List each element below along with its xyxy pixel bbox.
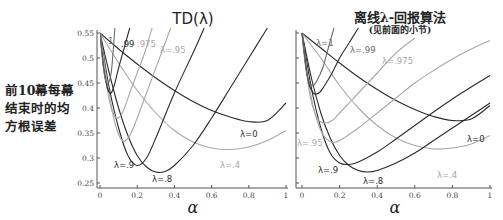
x-tick-label: 0.4: [371, 191, 383, 200]
curve-label: λ=1: [316, 38, 334, 48]
curve-label: λ=0: [467, 134, 485, 144]
x-tick-label: 1: [284, 191, 289, 200]
curve-lambda-p95: [302, 33, 490, 143]
x-tick-label: 0.6: [409, 191, 421, 200]
chart-canvas: TD(λ) α 0.250.30.350.40.450.50.5500.20.4…: [0, 0, 503, 220]
x-axis-label-right: α: [390, 198, 401, 217]
curve-label: λ=.99: [350, 45, 376, 55]
x-tick-label: 0: [98, 191, 103, 200]
curve-label: λ=.95: [297, 138, 323, 148]
curve-label: .975: [137, 39, 156, 49]
x-tick-label: 0.2: [131, 191, 143, 200]
curve-label: λ=.4: [220, 160, 240, 170]
y-tick-label: 0.5: [82, 54, 94, 63]
curve-label: λ=.95: [160, 45, 186, 55]
x-tick-label: 0.6: [206, 191, 218, 200]
x-tick-label: 0: [300, 191, 305, 200]
x-tick-label: 1: [488, 191, 493, 200]
curve-label: .99: [121, 39, 135, 49]
curve-label: λ=.4: [437, 170, 457, 180]
x-tick-label: 0.8: [446, 191, 458, 200]
x-tick-label: 0.8: [243, 191, 255, 200]
curve-label: λ=.975: [382, 56, 413, 66]
x-tick-label: 0.2: [334, 191, 346, 200]
y-tick-label: 0.3: [82, 154, 94, 163]
y-tick-label: 0.45: [77, 79, 94, 88]
y-tick-label: 0.55: [77, 29, 94, 38]
chart-title-td-lambda: TD(λ): [171, 10, 213, 28]
x-axis-label-left: α: [188, 198, 199, 217]
chart-title-offline-lambda-return: 离线λ-回报算法: [354, 10, 447, 25]
chart-panel-td-lambda: TD(λ) α 0.250.30.350.40.450.50.5500.20.4…: [77, 10, 288, 217]
y-tick-label: 0.35: [77, 129, 94, 138]
y-tick-label: 0.4: [82, 104, 94, 113]
curve-label: λ=.8: [152, 174, 172, 184]
curve-lambda-p4: [302, 33, 490, 149]
curve-label: 1: [108, 36, 113, 46]
y-tick-label: 0.25: [77, 179, 94, 188]
curve-label: λ=.8: [363, 176, 383, 186]
curve-label: λ=.9: [114, 160, 134, 170]
x-tick-label: 0.4: [168, 191, 180, 200]
chart-panel-offline-lambda-return: 离线λ-回报算法 (见前面的小节) α 00.20.40.60.81λ=0λ=.…: [296, 10, 492, 217]
curve-lambda-p4: [100, 33, 286, 150]
curve-label: λ=.9: [318, 165, 338, 175]
chart-subtitle-offline-lambda-return: (见前面的小节): [369, 24, 432, 35]
curve-label: λ=0: [240, 129, 258, 139]
